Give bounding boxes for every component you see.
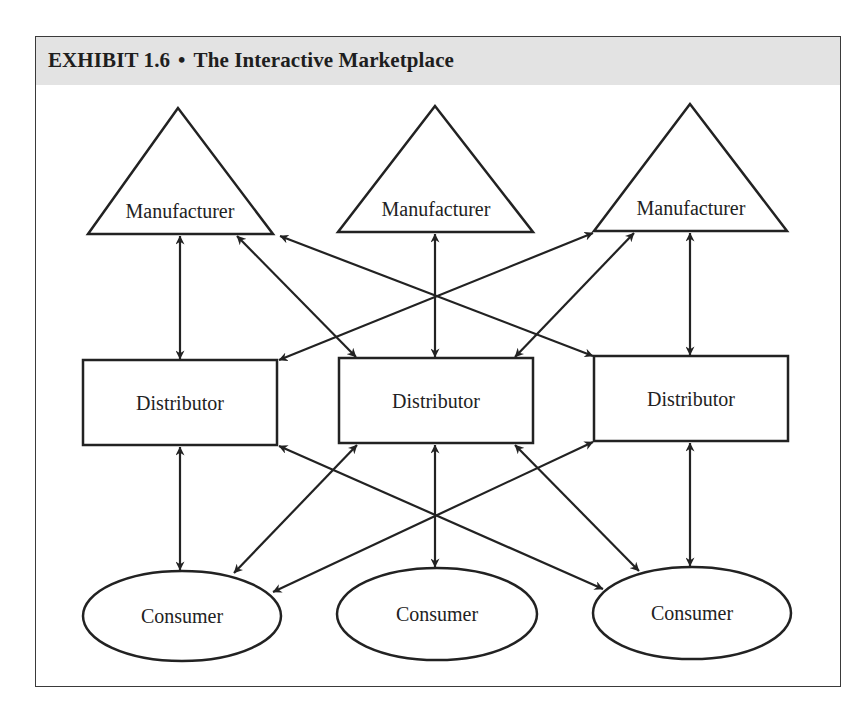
consumer-label: Consumer <box>651 602 734 624</box>
distributor-label: Distributor <box>392 390 480 412</box>
consumer-node-3: Consumer <box>593 567 791 659</box>
marketplace-diagram: Manufacturer Manufacturer Manufacturer D… <box>0 0 868 712</box>
distributor-label: Distributor <box>136 392 224 414</box>
manufacturer-label: Manufacturer <box>126 200 235 222</box>
arrow-m1-d2 <box>237 236 356 357</box>
arrow-d2-c1 <box>234 445 357 573</box>
consumer-node-2: Consumer <box>337 568 537 660</box>
consumer-label: Consumer <box>141 605 224 627</box>
arrow-m3-d2 <box>515 233 634 357</box>
consumer-label: Consumer <box>396 603 479 625</box>
distributor-label: Distributor <box>647 388 735 410</box>
manufacturer-node-1: Manufacturer <box>88 108 273 234</box>
arrow-d2-c3 <box>515 445 639 571</box>
manufacturer-label: Manufacturer <box>637 197 746 219</box>
manufacturer-node-2: Manufacturer <box>338 106 533 232</box>
manufacturer-node-3: Manufacturer <box>594 104 787 231</box>
distributor-node-2: Distributor <box>339 358 533 443</box>
manufacturer-label: Manufacturer <box>382 198 491 220</box>
distributor-node-1: Distributor <box>83 360 277 445</box>
consumer-node-1: Consumer <box>83 571 281 661</box>
distributor-node-3: Distributor <box>594 356 788 441</box>
